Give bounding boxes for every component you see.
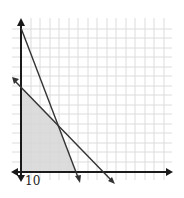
- linear-inequality-graph: [0, 0, 184, 198]
- x-axis-arrow-left-icon: [11, 168, 18, 176]
- shallow-line-arrow-top-icon: [12, 77, 19, 84]
- steep-line-arrow-icon: [75, 175, 81, 183]
- y-axis-arrow-down-icon: [17, 175, 25, 182]
- origin-tick-label: 10: [25, 174, 40, 188]
- y-axis-arrow-up-icon: [17, 18, 25, 26]
- x-axis-arrow-right-icon: [166, 168, 173, 176]
